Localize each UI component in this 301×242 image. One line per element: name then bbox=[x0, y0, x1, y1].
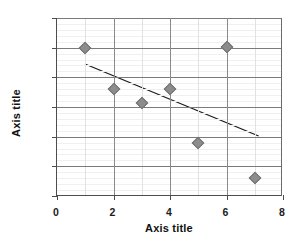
y-axis-tick bbox=[52, 77, 57, 78]
horizontal-gridline bbox=[57, 77, 281, 78]
horizontal-minor-gridline bbox=[57, 125, 281, 126]
y-axis-tick bbox=[52, 48, 57, 49]
horizontal-minor-gridline bbox=[57, 143, 281, 144]
horizontal-minor-gridline bbox=[57, 149, 281, 150]
horizontal-minor-gridline bbox=[57, 119, 281, 120]
x-axis-tick bbox=[170, 195, 171, 200]
x-axis-tick-label: 4 bbox=[166, 206, 172, 218]
x-axis-tick bbox=[57, 195, 58, 200]
data-point-marker[interactable] bbox=[107, 83, 120, 96]
horizontal-minor-gridline bbox=[57, 172, 281, 173]
y-axis-tick bbox=[52, 107, 57, 108]
horizontal-gridline bbox=[57, 18, 281, 19]
horizontal-minor-gridline bbox=[57, 178, 281, 179]
x-axis-tick-label: 0 bbox=[53, 206, 59, 218]
x-axis-tick bbox=[114, 195, 115, 200]
data-point-marker[interactable] bbox=[164, 83, 177, 96]
horizontal-minor-gridline bbox=[57, 101, 281, 102]
horizontal-minor-gridline bbox=[57, 131, 281, 132]
horizontal-minor-gridline bbox=[57, 154, 281, 155]
data-point-marker[interactable] bbox=[192, 136, 205, 149]
horizontal-minor-gridline bbox=[57, 184, 281, 185]
horizontal-minor-gridline bbox=[57, 36, 281, 37]
horizontal-minor-gridline bbox=[57, 60, 281, 61]
vertical-gridline bbox=[114, 18, 115, 195]
horizontal-gridline bbox=[57, 137, 281, 138]
x-axis-tick bbox=[227, 195, 228, 200]
y-axis-tick bbox=[52, 166, 57, 167]
horizontal-minor-gridline bbox=[57, 30, 281, 31]
horizontal-minor-gridline bbox=[57, 71, 281, 72]
y-axis-tick bbox=[52, 137, 57, 138]
scatter-chart: 0%5%10%15%20%25%30% Axis title Axis titl… bbox=[0, 0, 301, 242]
horizontal-minor-gridline bbox=[57, 113, 281, 114]
horizontal-gridline bbox=[57, 107, 281, 108]
horizontal-gridline bbox=[57, 166, 281, 167]
horizontal-minor-gridline bbox=[57, 54, 281, 55]
plot-area: 0%5%10%15%20%25%30% bbox=[56, 18, 282, 196]
x-axis-title: Axis title bbox=[56, 222, 282, 234]
vertical-gridline bbox=[170, 18, 171, 195]
x-axis-tick bbox=[283, 195, 284, 200]
data-point-marker[interactable] bbox=[79, 41, 92, 54]
x-axis-tick-label: 2 bbox=[110, 206, 116, 218]
x-axis-tick-label: 8 bbox=[279, 206, 285, 218]
x-axis-tick-label: 6 bbox=[223, 206, 229, 218]
horizontal-minor-gridline bbox=[57, 160, 281, 161]
y-axis-title: Axis title bbox=[10, 65, 22, 161]
y-axis-tick bbox=[52, 18, 57, 19]
horizontal-minor-gridline bbox=[57, 24, 281, 25]
horizontal-minor-gridline bbox=[57, 42, 281, 43]
horizontal-minor-gridline bbox=[57, 190, 281, 191]
horizontal-minor-gridline bbox=[57, 65, 281, 66]
